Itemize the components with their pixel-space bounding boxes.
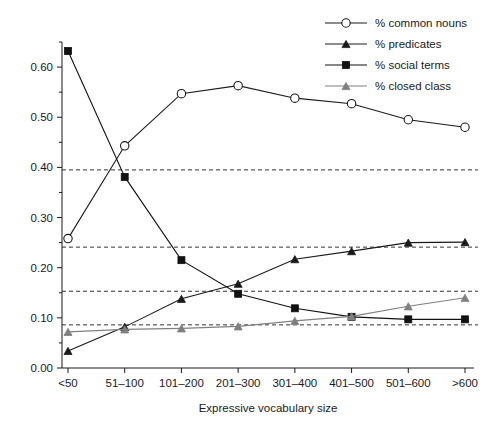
data-point-marker-2-1	[121, 173, 128, 180]
legend-label: % closed class	[375, 80, 451, 92]
line-chart: 0.000.100.200.300.400.500.60 <5051–10010…	[0, 0, 495, 426]
y-tick-label: 0.50	[31, 111, 53, 123]
y-tick-label: 0.20	[31, 262, 53, 274]
data-point-marker-2-3	[235, 290, 242, 297]
y-tick-label: 0.00	[31, 362, 53, 374]
data-point-marker-0-0	[64, 234, 72, 242]
x-tick-label-7: >600	[452, 377, 478, 389]
legend-item-2[interactable]: % predicates	[325, 38, 442, 50]
y-tick-label: 0.10	[31, 312, 53, 324]
data-point-marker-0-3	[234, 81, 242, 89]
data-point-marker-0-6	[404, 116, 412, 124]
series-line	[68, 298, 465, 332]
legend-label: % predicates	[375, 38, 442, 50]
data-point-marker-2-4	[291, 305, 298, 312]
x-tick-label-2: 101–200	[159, 377, 204, 389]
series-2	[64, 239, 469, 355]
x-tick-label-0: <50	[58, 377, 78, 389]
legend-item-4[interactable]: % closed class	[325, 80, 451, 92]
series-line	[68, 86, 465, 239]
y-tick-labels-group: 0.000.100.200.300.400.500.60	[31, 61, 53, 374]
chart-legend: % common nouns% predicates% social terms…	[325, 17, 467, 92]
legend-label: % common nouns	[375, 17, 467, 29]
data-point-marker-1-2	[177, 295, 185, 302]
x-tick-label-3: 201–300	[216, 377, 261, 389]
y-tick-marks-group	[57, 42, 62, 368]
legend-item-1[interactable]: % common nouns	[325, 17, 467, 29]
x-tick-label-1: 51–100	[106, 377, 144, 389]
data-point-marker-0-5	[347, 99, 355, 107]
x-tick-labels-group: <5051–100101–200201–300301–400401–500501…	[58, 377, 478, 389]
x-tick-label-5: 401–500	[329, 377, 374, 389]
data-point-marker-0-7	[461, 123, 469, 131]
y-tick-label: 0.60	[31, 61, 53, 73]
series-line	[68, 242, 465, 351]
y-tick-label: 0.30	[31, 212, 53, 224]
data-point-marker-0-4	[291, 94, 299, 102]
legend-label: % social terms	[375, 59, 450, 71]
data-point-marker-1-3	[234, 280, 242, 287]
x-tick-label-6: 501–600	[386, 377, 431, 389]
data-series-group	[64, 48, 469, 355]
x-tick-marks-group	[68, 368, 465, 373]
data-point-marker-0-1	[121, 142, 129, 150]
series-1	[64, 81, 469, 242]
data-point-marker-2-7	[462, 316, 469, 323]
data-point-marker-legend-2	[343, 62, 350, 69]
y-tick-label: 0.40	[31, 161, 53, 173]
x-axis-title: Expressive vocabulary size	[199, 402, 338, 414]
data-point-marker-2-6	[405, 316, 412, 323]
data-point-marker-2-2	[178, 257, 185, 264]
series-4	[64, 294, 469, 335]
x-tick-label-4: 301–400	[272, 377, 317, 389]
data-point-marker-0-2	[177, 89, 185, 97]
data-point-marker-legend-0	[342, 19, 350, 27]
data-point-marker-2-0	[65, 48, 72, 55]
data-point-marker-1-0	[64, 347, 72, 354]
legend-item-3[interactable]: % social terms	[325, 59, 450, 71]
chart-container: 0.000.100.200.300.400.500.60 <5051–10010…	[0, 0, 495, 426]
